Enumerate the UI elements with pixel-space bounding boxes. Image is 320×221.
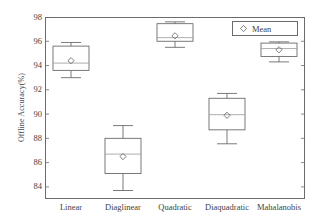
box-plot-diaglinear <box>105 126 141 191</box>
y-tick-label: 84 <box>26 182 42 191</box>
x-tick-label: Mahalanobis <box>257 202 301 212</box>
legend: Mean <box>232 21 298 36</box>
x-tick-label: Quadratic <box>158 202 192 212</box>
x-tick-label: Linear <box>60 202 82 212</box>
y-tick-label: 86 <box>26 158 42 167</box>
y-tick-label: 88 <box>26 134 42 143</box>
box-plot-series <box>45 17 305 199</box>
legend-label-mean: Mean <box>252 24 271 34</box>
y-tick-label: 94 <box>26 61 42 70</box>
box-plot-linear <box>53 42 89 77</box>
box-plot-mahalanobis <box>261 42 297 62</box>
x-tick-label: Diaquadratic <box>205 202 249 212</box>
mean-diamond-icon <box>240 25 247 32</box>
box-plot-diaquadratic <box>209 93 245 143</box>
y-tick-label: 90 <box>26 110 42 119</box>
y-axis-tick-labels: 8486889092949698 <box>24 0 42 221</box>
y-tick-label: 92 <box>26 85 42 94</box>
box-plot-quadratic <box>157 22 193 47</box>
y-tick-label: 96 <box>26 37 42 46</box>
box-plot-chart: Offline Accuracy(%) 8486889092949698 Lin… <box>0 0 320 221</box>
y-tick-label: 98 <box>26 13 42 22</box>
x-tick-label: Diaglinear <box>105 202 141 212</box>
